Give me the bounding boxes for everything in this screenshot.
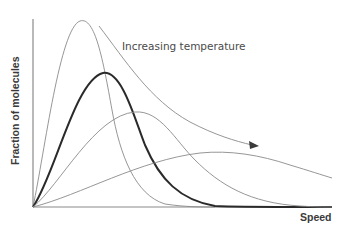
maxwell-boltzmann-chart: Increasing temperature Speed Fraction of… bbox=[0, 0, 347, 231]
annotation-increasing-temperature: Increasing temperature bbox=[122, 40, 246, 52]
curve-t4 bbox=[33, 152, 332, 207]
arrowhead-icon bbox=[249, 141, 259, 149]
x-axis-label: Speed bbox=[300, 211, 332, 223]
y-axis-label: Fraction of molecules bbox=[9, 56, 21, 165]
curve-t3 bbox=[33, 112, 332, 207]
curve-t2 bbox=[33, 73, 332, 207]
